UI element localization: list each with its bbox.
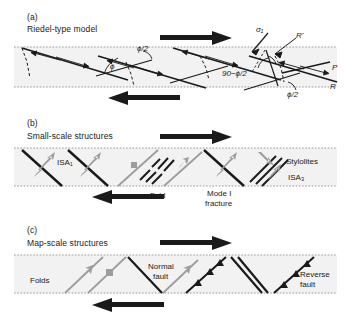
normal-fault-label-line1: Normal bbox=[148, 262, 174, 272]
stylolites-label: Stylolites bbox=[286, 157, 318, 167]
isa1-label: ISA₁ bbox=[57, 158, 73, 168]
bulk-shear-arrow-top bbox=[160, 31, 232, 45]
bulk-shear-arrow-bottom bbox=[108, 91, 180, 105]
r-shear-label: R bbox=[330, 82, 336, 92]
reverse-fault-label-line1: Reverse bbox=[300, 270, 330, 280]
bulk-shear-arrow-bottom bbox=[92, 298, 164, 312]
panel-b-small-scale-structures: (b) Small-scale structures bbox=[0, 108, 345, 212]
fold-label: Fold bbox=[150, 191, 166, 201]
bulk-shear-arrow-top bbox=[160, 130, 232, 144]
panel-a-riedel-type-model: (a) Riedel-type model bbox=[0, 0, 345, 108]
sigma1-label: σ₁ bbox=[256, 25, 263, 35]
angle-90-minus-phi-half-label: 90−ϕ/2 bbox=[222, 69, 247, 79]
riedel-shear-figure: (a) Riedel-type model bbox=[0, 0, 345, 323]
panel-c-map-scale-structures: (c) Map-scale structures bbox=[0, 212, 345, 323]
normal-fault-label-line2: fault bbox=[153, 272, 168, 282]
isa3-label: ISA₃ bbox=[288, 173, 304, 183]
folds-label: Folds bbox=[30, 276, 50, 286]
angle-phi-half-upper-label: ϕ/2 bbox=[137, 44, 148, 54]
mode-i-fracture-label-line1: Mode I bbox=[207, 189, 231, 199]
reverse-fault-label-line2: fault bbox=[300, 280, 315, 290]
mode-i-fracture-label-line2: fracture bbox=[205, 199, 232, 209]
p-shear-label: P bbox=[332, 63, 337, 73]
r-prime-label: R' bbox=[296, 31, 303, 41]
bulk-shear-arrow-top bbox=[160, 236, 232, 250]
shear-zone-band bbox=[14, 255, 337, 293]
angle-phi-label: ϕ bbox=[110, 62, 114, 72]
angle-phi-half-lower-label: ϕ/2 bbox=[287, 90, 298, 100]
